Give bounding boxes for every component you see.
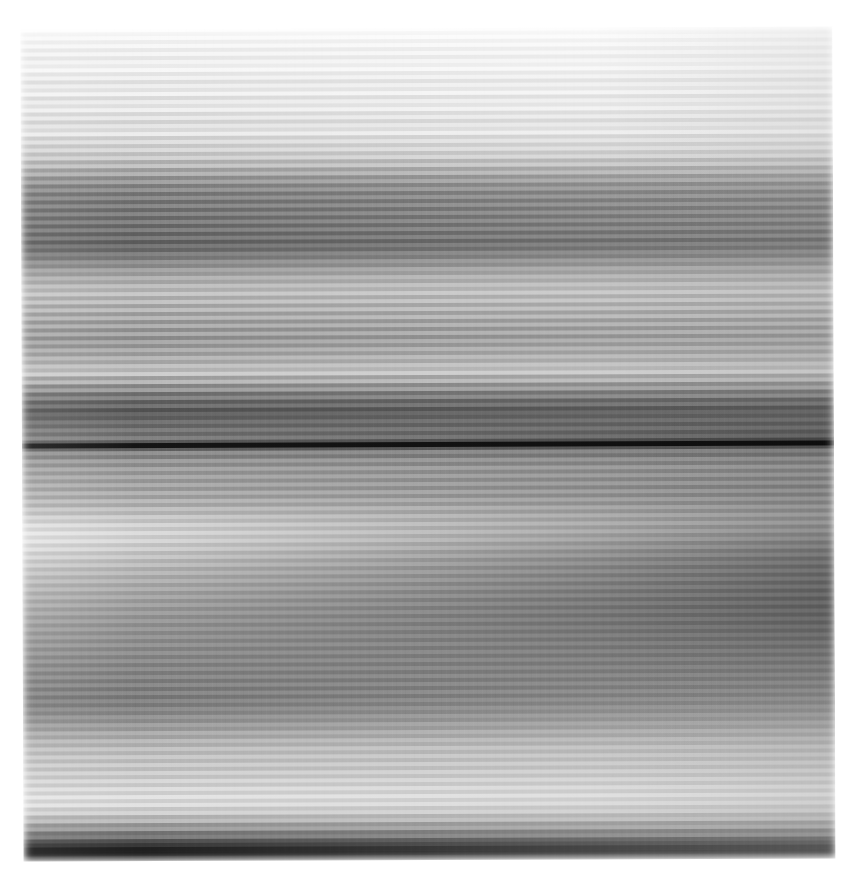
x-axis-label: horizontal position (px) (0, 16, 1, 17)
blurred-content-plate (20, 26, 835, 861)
y-axis-label: vertical position (px) (0, 16, 1, 17)
luminance-band-stack (20, 26, 835, 861)
capture-note: Each row band is rendered as a left-to-r… (0, 16, 1, 17)
capture-subtitle: Row-wise luminance profile of a motion-b… (0, 16, 1, 17)
capture-title: Horizontally smeared grayscale capture (0, 21, 1, 22)
capture-canvas: Horizontally smeared grayscale capture R… (0, 0, 845, 882)
value-axis-label: luminance (0 = black, 255 = white) (0, 16, 1, 17)
